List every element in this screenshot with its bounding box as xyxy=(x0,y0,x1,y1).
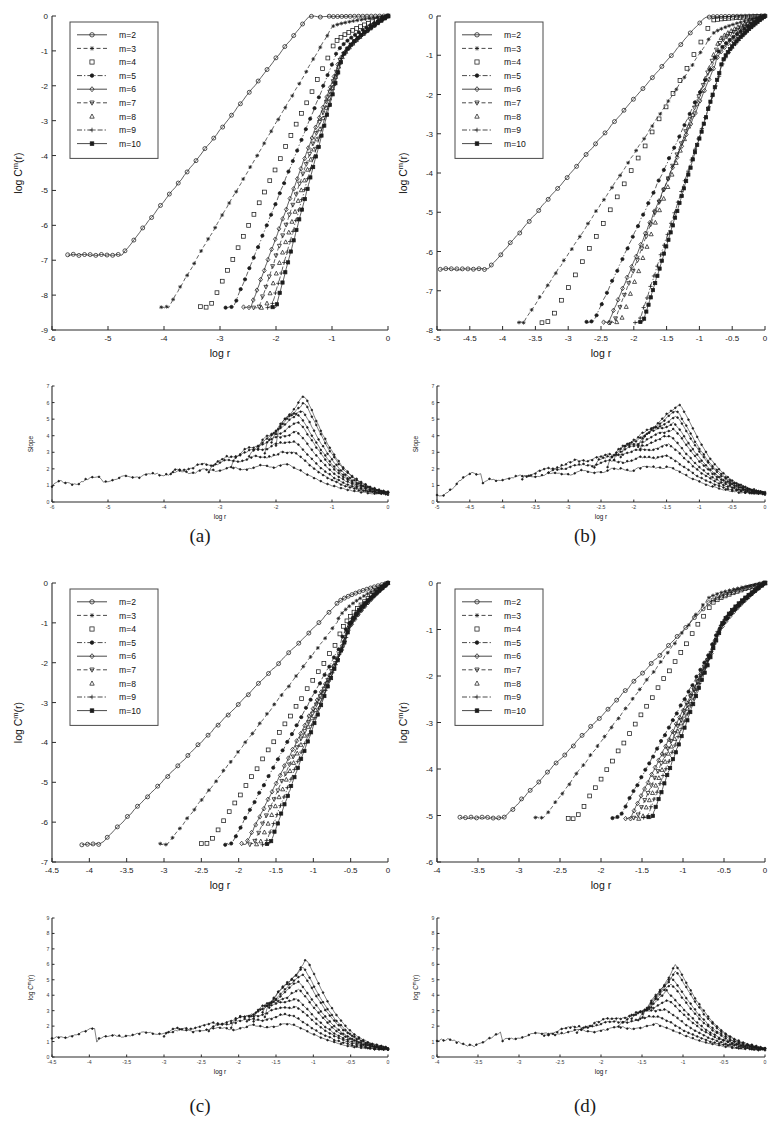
svg-text:m=6: m=6 xyxy=(119,651,136,661)
svg-text:-4: -4 xyxy=(87,1059,92,1065)
svg-text:m=8: m=8 xyxy=(119,112,136,122)
svg-text:-3.5: -3.5 xyxy=(120,866,134,875)
svg-text:m=5: m=5 xyxy=(119,638,136,648)
svg-text:-9: -9 xyxy=(41,326,49,335)
svg-text:5: 5 xyxy=(432,416,435,422)
svg-text:log r: log r xyxy=(210,347,231,359)
svg-text:-3: -3 xyxy=(517,1059,522,1065)
svg-text:2: 2 xyxy=(47,466,50,472)
svg-text:-2.5: -2.5 xyxy=(556,1059,565,1065)
svg-text:0: 0 xyxy=(432,499,435,505)
svg-text:log r: log r xyxy=(214,1068,227,1076)
svg-text:-8: -8 xyxy=(426,326,434,335)
svg-text:m=4: m=4 xyxy=(504,57,521,67)
svg-text:5: 5 xyxy=(432,977,435,983)
svg-text:-4.5: -4.5 xyxy=(465,504,474,510)
svg-text:-2: -2 xyxy=(599,1059,604,1065)
svg-text:-1: -1 xyxy=(681,1059,686,1065)
svg-text:-6: -6 xyxy=(41,221,49,230)
svg-text:m=10: m=10 xyxy=(504,139,526,149)
svg-text:-0.5: -0.5 xyxy=(344,866,358,875)
svg-text:-0.5: -0.5 xyxy=(346,1059,355,1065)
svg-text:log r: log r xyxy=(591,347,612,359)
svg-text:0: 0 xyxy=(429,12,434,21)
svg-text:-1.5: -1.5 xyxy=(638,1059,647,1065)
svg-text:-4: -4 xyxy=(41,738,49,747)
svg-text:-2: -2 xyxy=(236,1059,241,1065)
svg-text:-5: -5 xyxy=(426,208,434,217)
svg-text:-4: -4 xyxy=(499,334,507,343)
chart-a-slope: -6-5-4-3-2-1001234567log rSlope xyxy=(0,378,400,528)
svg-text:9: 9 xyxy=(432,915,435,921)
svg-text:-3: -3 xyxy=(566,504,571,510)
svg-text:4: 4 xyxy=(47,992,50,998)
svg-text:m=3: m=3 xyxy=(504,44,521,54)
svg-text:9: 9 xyxy=(47,915,50,921)
svg-text:m=8: m=8 xyxy=(119,679,136,689)
chart-b-main: -5-4.5-4-3.5-3-2.5-2-1.5-1-0.50-8-7-6-5-… xyxy=(385,6,779,376)
svg-text:-2: -2 xyxy=(41,82,49,91)
chart-c-main: -4.5-4-3.5-3-2.5-2-1.5-1-0.50-7-6-5-4-3-… xyxy=(0,573,400,908)
svg-text:-1: -1 xyxy=(328,334,336,343)
svg-text:m=2: m=2 xyxy=(119,30,136,40)
svg-text:m=4: m=4 xyxy=(504,624,521,634)
svg-text:log r: log r xyxy=(595,1068,608,1076)
svg-text:-0.5: -0.5 xyxy=(720,1059,729,1065)
svg-text:m=3: m=3 xyxy=(119,611,136,621)
svg-text:m=2: m=2 xyxy=(504,597,521,607)
svg-text:-4: -4 xyxy=(160,334,168,343)
svg-text:-2: -2 xyxy=(274,504,279,510)
svg-text:-4: -4 xyxy=(41,152,49,161)
svg-text:5: 5 xyxy=(47,977,50,983)
svg-text:Slope: Slope xyxy=(27,435,35,452)
svg-text:m=6: m=6 xyxy=(504,651,521,661)
svg-text:-4: -4 xyxy=(433,866,441,875)
svg-text:0: 0 xyxy=(47,1054,50,1060)
svg-text:2: 2 xyxy=(47,1023,50,1029)
svg-text:-3.5: -3.5 xyxy=(531,504,540,510)
svg-text:-5: -5 xyxy=(41,778,49,787)
svg-text:-5: -5 xyxy=(41,186,49,195)
svg-text:-2: -2 xyxy=(631,504,636,510)
svg-text:1: 1 xyxy=(47,482,50,488)
panel-c: -4.5-4-3.5-3-2.5-2-1.5-1-0.50-7-6-5-4-3-… xyxy=(0,573,400,908)
svg-text:7: 7 xyxy=(47,383,50,389)
svg-text:0: 0 xyxy=(47,499,50,505)
svg-text:m=10: m=10 xyxy=(504,706,526,716)
svg-text:m=3: m=3 xyxy=(504,611,521,621)
svg-text:-1: -1 xyxy=(311,1059,316,1065)
svg-text:-3: -3 xyxy=(41,117,49,126)
svg-text:2: 2 xyxy=(432,466,435,472)
svg-text:3: 3 xyxy=(47,449,50,455)
figure-correlation-integrals: -6-5-4-3-2-10-9-8-7-6-5-4-3-2-10log rlog… xyxy=(0,0,779,1146)
svg-text:-6: -6 xyxy=(50,504,55,510)
svg-text:3: 3 xyxy=(432,1008,435,1014)
svg-text:m=9: m=9 xyxy=(119,692,136,702)
svg-text:-1: -1 xyxy=(41,47,49,56)
svg-text:-5: -5 xyxy=(435,504,440,510)
svg-text:3: 3 xyxy=(432,449,435,455)
svg-text:-2: -2 xyxy=(630,334,638,343)
svg-text:1: 1 xyxy=(432,1039,435,1045)
svg-text:-2: -2 xyxy=(597,866,605,875)
chart-d-slope: -4-3.5-3-2.5-2-1.5-1-0.500123456789log r… xyxy=(385,910,779,1085)
svg-text:4: 4 xyxy=(432,433,435,439)
svg-text:-1: -1 xyxy=(426,51,434,60)
svg-text:-3.5: -3.5 xyxy=(122,1059,131,1065)
panel-caption-b: (b) xyxy=(525,525,645,547)
svg-text:0: 0 xyxy=(44,579,49,588)
svg-text:6: 6 xyxy=(432,961,435,967)
svg-text:7: 7 xyxy=(432,946,435,952)
svg-text:m=6: m=6 xyxy=(119,84,136,94)
svg-text:m=5: m=5 xyxy=(504,638,521,648)
svg-text:m=5: m=5 xyxy=(504,71,521,81)
svg-text:m=9: m=9 xyxy=(119,125,136,135)
svg-text:5: 5 xyxy=(47,416,50,422)
svg-text:6: 6 xyxy=(47,400,50,406)
svg-text:log r: log r xyxy=(214,513,227,521)
svg-text:m=7: m=7 xyxy=(119,98,136,108)
svg-text:-3: -3 xyxy=(41,699,49,708)
svg-text:-1: -1 xyxy=(679,866,687,875)
svg-text:-0.5: -0.5 xyxy=(725,334,739,343)
svg-text:-1.5: -1.5 xyxy=(272,1059,281,1065)
